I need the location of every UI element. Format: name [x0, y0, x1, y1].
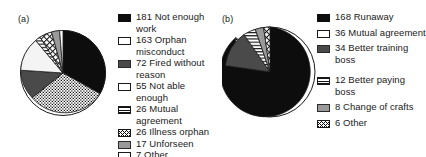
legend-item: 168 Runaway [317, 11, 426, 23]
figure-pie-charts: (a) [0, 0, 426, 157]
legend-label: 6 Other [335, 117, 367, 129]
legend-item: 6 Other [317, 117, 426, 129]
pie-chart-a [20, 18, 106, 128]
legend-item: 72 Fired without reason [118, 57, 213, 80]
legend-swatch-icon [118, 106, 131, 114]
legend-a: 181 Not enough work 163 Orphan misconduc… [118, 11, 213, 157]
legend-label: 26 Mutual agreement [136, 103, 213, 126]
pie-a-svg [20, 18, 106, 128]
legend-swatch-icon [118, 60, 131, 68]
legend-swatch-icon [317, 30, 330, 38]
legend-swatch-icon [317, 77, 330, 85]
legend-swatch-icon [317, 14, 330, 22]
legend-label: 7 Other [136, 149, 168, 157]
legend-label: 12 Better paying boss [335, 74, 426, 97]
legend-item: 55 Not able enough [118, 80, 213, 103]
legend-swatch-icon [118, 14, 131, 22]
legend-label: 163 Orphan misconduct [136, 34, 187, 57]
legend-label: 34 Better training boss [335, 42, 426, 65]
panel-b: (b) [213, 0, 426, 157]
legend-item: 181 Not enough work [118, 11, 213, 34]
legend-item: 26 Mutual agreement [118, 103, 213, 126]
legend-label: 181 Not enough work [136, 11, 204, 34]
legend-item: 7 Other [118, 149, 213, 157]
legend-label: 17 Unforseen [136, 138, 194, 150]
legend-item: 163 Orphan misconduct [118, 34, 213, 57]
pie-b-svg [222, 16, 318, 128]
legend-label: 72 Fired without reason [136, 57, 204, 80]
legend-swatch-icon [118, 141, 131, 149]
panel-a: (a) [0, 0, 213, 157]
legend-swatch-icon [317, 120, 330, 128]
legend-item: 12 Better paying boss [317, 74, 426, 97]
legend-label: 26 Illness orphan [136, 126, 209, 138]
legend-b: 168 Runaway 36 Mutual agreement 34 Bette… [317, 11, 426, 128]
legend-item: 8 Change of crafts [317, 101, 426, 113]
legend-swatch-icon [118, 152, 131, 157]
legend-item: 36 Mutual agreement [317, 27, 426, 39]
legend-swatch-icon [317, 45, 330, 53]
legend-swatch-icon [118, 129, 131, 137]
legend-swatch-icon [118, 83, 131, 91]
legend-label: 168 Runaway [335, 11, 394, 23]
legend-item: 17 Unforseen [118, 138, 213, 150]
legend-item: 34 Better training boss [317, 42, 426, 65]
legend-item: 26 Illness orphan [118, 126, 213, 138]
legend-swatch-icon [118, 37, 131, 45]
legend-label: 36 Mutual agreement [335, 27, 426, 39]
pie-chart-b [222, 16, 318, 128]
legend-label: 8 Change of crafts [335, 101, 414, 113]
legend-label: 55 Not able enough [136, 80, 185, 103]
legend-swatch-icon [317, 104, 330, 112]
